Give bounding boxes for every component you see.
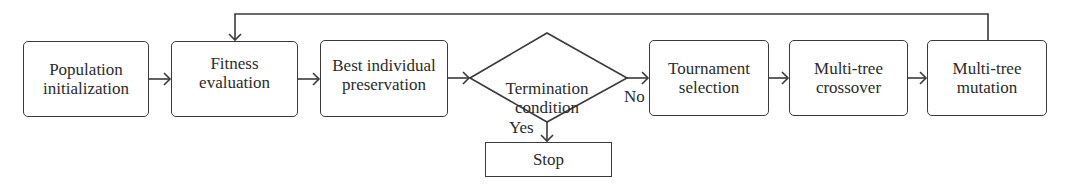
node-label: Stop: [533, 150, 564, 169]
node-label: Multi-tree crossover: [814, 59, 883, 97]
node-best-individual-preservation: Best individual preservation: [320, 40, 448, 117]
node-label: Best individual preservation: [332, 56, 435, 94]
node-multi-tree-crossover: Multi-tree crossover: [789, 40, 908, 116]
node-fitness-evaluation: Fitness evaluation: [171, 41, 298, 117]
node-tournament-selection: Tournament selection: [649, 40, 769, 116]
node-label: Tournament selection: [668, 59, 750, 97]
node-label: Population initialization: [43, 60, 129, 98]
node-multi-tree-mutation: Multi-tree mutation: [927, 40, 1047, 116]
node-label: Multi-tree mutation: [953, 59, 1022, 97]
node-population-initialization: Population initialization: [23, 41, 149, 117]
node-stop: Stop: [485, 142, 612, 177]
node-label: Termination condition: [506, 79, 589, 117]
node-termination-condition: Termination condition: [487, 60, 607, 117]
node-label: Fitness evaluation: [199, 54, 270, 92]
arrow-mutation-fitness: [235, 14, 988, 40]
edge-label-no: No: [624, 87, 645, 107]
edge-label-yes: Yes: [509, 118, 534, 138]
